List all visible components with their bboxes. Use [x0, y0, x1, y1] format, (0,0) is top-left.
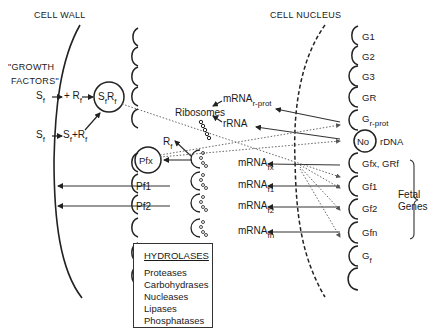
- gene-gf1: Gf1: [362, 181, 377, 192]
- gene-gf: Gf: [362, 250, 372, 262]
- pf1-label: Pf1: [136, 181, 151, 192]
- gene-no: No: [357, 136, 369, 147]
- sfrf-complex-label: SfRf: [98, 91, 116, 103]
- mrna-rprot-label: mRNAr-prot: [223, 93, 272, 105]
- rf-label: Rf: [163, 136, 172, 148]
- pfx-label: Pfx: [139, 155, 153, 166]
- gene-g1: G1: [362, 31, 375, 42]
- growth-factors-label-1: "GROWTH: [8, 62, 54, 73]
- gene-gf2: Gf2: [362, 203, 377, 214]
- hydrolase-item: Nucleases: [144, 291, 188, 302]
- sf-label-1: Sf: [36, 90, 45, 102]
- sf-label-2: Sf: [36, 129, 45, 141]
- ribosomes-label: Ribosomes: [175, 107, 225, 118]
- gene-gfn: Gfn: [362, 227, 377, 238]
- growth-factors-label-2: FACTORS": [11, 76, 59, 87]
- hydrolase-item: Carbohydrases: [144, 279, 208, 290]
- rrna-label: rRNA: [223, 118, 247, 129]
- hydrolases-box: HYDROLASES Proteases Carbohydrases Nucle…: [133, 243, 213, 328]
- mrna-f1-label: mRNAf1: [238, 179, 274, 191]
- gene-gfx-grf: Gfx, GRf: [362, 158, 399, 169]
- fetal-label-1: Fetal: [398, 189, 420, 200]
- gene-g3: G3: [362, 71, 375, 82]
- plus-rf-label: + Rf: [64, 90, 82, 102]
- cell-nucleus-label: CELL NUCLEUS: [270, 10, 341, 21]
- gene-g2: G2: [362, 51, 375, 62]
- hydrolases-title: HYDROLASES: [144, 250, 209, 261]
- mrna-f2-label: mRNAf2: [238, 200, 274, 212]
- hydrolase-item: Lipases: [144, 303, 177, 314]
- sf-plus-rf-label: Sf+Rf: [63, 129, 87, 141]
- gene-gr: GR: [362, 92, 376, 103]
- cell-wall-label: CELL WALL: [34, 10, 86, 21]
- mrna-fn-label: mRNAfn: [238, 225, 274, 237]
- fetal-label-2: Genes: [398, 201, 427, 212]
- hydrolase-item: Proteases: [144, 267, 187, 278]
- hydrolase-item: Phosphatases: [144, 315, 204, 326]
- rdna-label: rDNA: [380, 136, 403, 147]
- pf2-label: Pf2: [136, 201, 151, 212]
- gene-g-rprot: Gr-prot: [362, 113, 389, 125]
- mrna-fx-label: mRNAfx: [238, 157, 274, 169]
